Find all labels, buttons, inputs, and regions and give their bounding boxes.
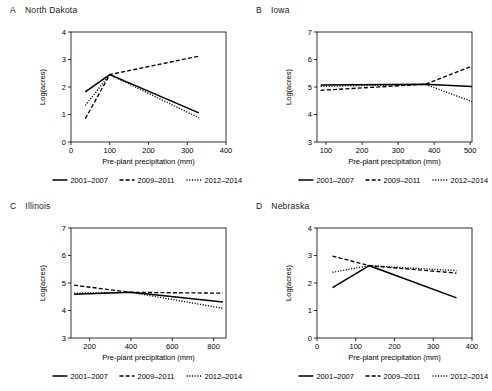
y-tick-label: 7 — [308, 28, 312, 37]
y-tick-label: 2 — [62, 83, 66, 92]
panel-letter: B — [256, 5, 262, 15]
panel-north-dakota: ANorth Dakota012340100200300400Pre-plant… — [0, 0, 246, 195]
y-tick-label: 7 — [62, 224, 66, 233]
x-tick-label: 800 — [207, 342, 220, 351]
plot-frame — [71, 228, 226, 338]
legend-label: 2009–2011 — [137, 372, 174, 381]
legend-label: 2012–2014 — [205, 372, 243, 381]
x-axis-title: Pre-plant precipitation (mm) — [348, 353, 441, 362]
chart-illinois: 34567200400600800Pre-plant precipitation… — [0, 196, 246, 391]
y-tick-label: 4 — [62, 28, 66, 37]
y-tick-label: 3 — [308, 138, 312, 147]
y-tick-label: 4 — [308, 224, 312, 233]
chart-iowa: 34567100200300400500Pre-plant precipitat… — [246, 0, 492, 195]
y-tick-label: 3 — [62, 334, 66, 343]
x-axis-title: Pre-plant precipitation (mm) — [102, 157, 195, 166]
x-tick-label: 0 — [69, 146, 73, 155]
legend-label: 2009–2011 — [137, 176, 174, 185]
legend-label: 2001–2007 — [70, 372, 108, 381]
plot-frame — [317, 32, 472, 142]
legend-label: 2012–2014 — [451, 372, 489, 381]
y-tick-label: 2 — [308, 279, 312, 288]
legend-label: 2001–2007 — [316, 176, 354, 185]
y-axis-title: Log(acres) — [284, 265, 293, 301]
x-axis-title: Pre-plant precipitation (mm) — [102, 353, 195, 362]
x-tick-label: 200 — [83, 342, 96, 351]
x-tick-label: 200 — [356, 146, 369, 155]
legend-label: 2009–2011 — [383, 372, 420, 381]
panel-title: Iowa — [271, 5, 290, 15]
figure-container: ANorth Dakota012340100200300400Pre-plant… — [0, 0, 492, 391]
x-tick-label: 400 — [466, 342, 479, 351]
panel-letter: D — [256, 201, 262, 211]
x-tick-label: 300 — [392, 146, 405, 155]
legend-label: 2012–2014 — [205, 176, 243, 185]
legend-label: 2001–2007 — [316, 372, 354, 381]
legend-label: 2009–2011 — [383, 176, 420, 185]
plot-frame — [71, 32, 226, 142]
x-tick-label: 400 — [428, 146, 441, 155]
panel-title: Illinois — [25, 201, 50, 211]
y-tick-label: 6 — [308, 55, 312, 64]
x-tick-label: 100 — [320, 146, 333, 155]
panel-nebraska: DNebraska012340100200300400Pre-plant pre… — [246, 196, 492, 391]
x-tick-label: 200 — [142, 146, 155, 155]
x-tick-label: 600 — [166, 342, 179, 351]
panel-letter: C — [10, 201, 16, 211]
y-tick-label: 4 — [308, 110, 312, 119]
panel-illinois: CIllinois34567200400600800Pre-plant prec… — [0, 196, 246, 391]
chart-north-dakota: 012340100200300400Pre-plant precipitatio… — [0, 0, 246, 195]
x-tick-label: 400 — [220, 146, 233, 155]
y-tick-label: 0 — [62, 138, 66, 147]
y-axis-title: Log(acres) — [284, 69, 293, 105]
x-tick-label: 500 — [464, 146, 477, 155]
y-axis-title: Log(acres) — [38, 265, 47, 301]
panel-iowa: BIowa34567100200300400500Pre-plant preci… — [246, 0, 492, 195]
x-tick-label: 0 — [315, 342, 319, 351]
panel-letter: A — [10, 5, 16, 15]
y-tick-label: 1 — [62, 110, 66, 119]
panel-heading: ANorth Dakota — [10, 5, 77, 15]
x-tick-label: 200 — [388, 342, 401, 351]
y-tick-label: 0 — [308, 334, 312, 343]
panel-heading: DNebraska — [256, 201, 309, 211]
chart-nebraska: 012340100200300400Pre-plant precipitatio… — [246, 196, 492, 391]
y-tick-label: 1 — [308, 306, 312, 315]
x-tick-label: 100 — [103, 146, 116, 155]
y-tick-label: 5 — [308, 83, 312, 92]
y-tick-label: 3 — [308, 251, 312, 260]
panel-title: Nebraska — [271, 201, 309, 211]
y-tick-label: 4 — [62, 306, 66, 315]
y-axis-title: Log(acres) — [38, 69, 47, 105]
x-axis-title: Pre-plant precipitation (mm) — [348, 157, 441, 166]
x-tick-label: 300 — [427, 342, 440, 351]
x-tick-label: 400 — [125, 342, 138, 351]
x-tick-label: 100 — [349, 342, 362, 351]
y-tick-label: 3 — [62, 55, 66, 64]
panel-heading: CIllinois — [10, 201, 51, 211]
x-tick-label: 300 — [181, 146, 194, 155]
legend-label: 2001–2007 — [70, 176, 108, 185]
legend-label: 2012–2014 — [451, 176, 489, 185]
panel-heading: BIowa — [256, 5, 290, 15]
panel-title: North Dakota — [25, 5, 77, 15]
y-tick-label: 5 — [62, 279, 66, 288]
y-tick-label: 6 — [62, 251, 66, 260]
